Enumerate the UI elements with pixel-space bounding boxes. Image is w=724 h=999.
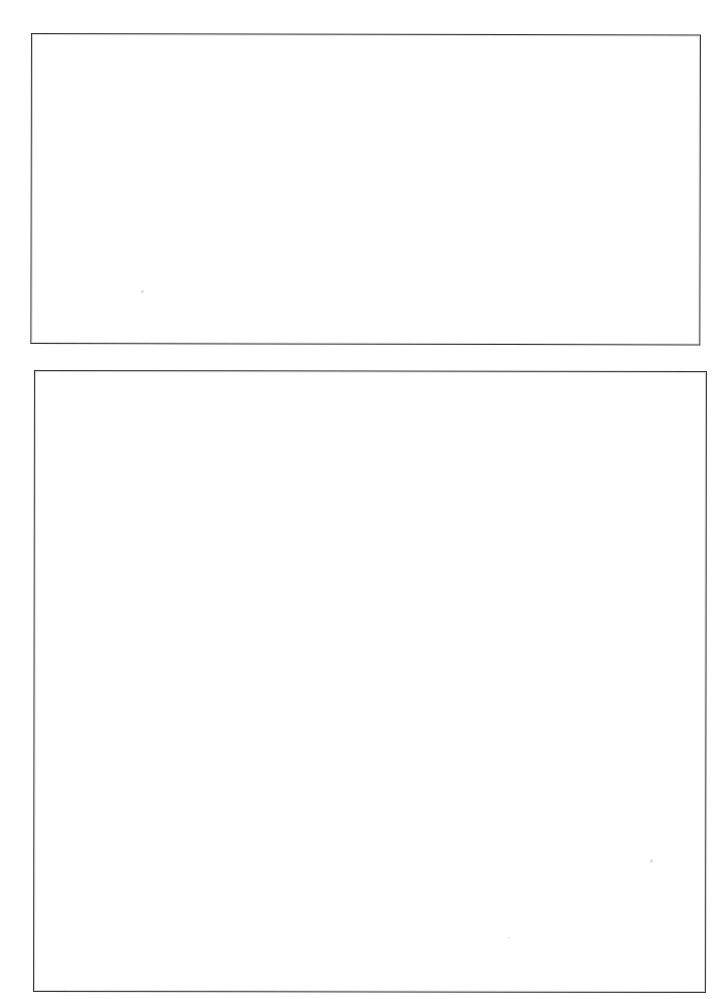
document-page [0,0,724,999]
figure-frame-top-content [31,34,700,344]
figure-frame-bottom-content [34,371,706,992]
figure-frame-top [30,33,701,345]
figure-frame-bottom [33,370,707,993]
page-visible-text [0,0,1,1]
